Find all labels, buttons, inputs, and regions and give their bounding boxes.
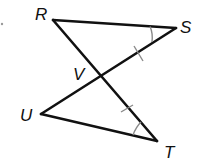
label-r: R <box>35 5 47 24</box>
label-v: V <box>73 65 86 84</box>
angle-arc-s <box>150 27 152 43</box>
segment-su <box>41 28 176 114</box>
stray-dot <box>1 23 3 25</box>
segment-rs <box>53 20 176 28</box>
label-u: U <box>20 106 33 125</box>
geometry-diagram: R S V U T <box>0 0 198 168</box>
label-t: T <box>164 143 176 162</box>
segment-ut <box>41 114 157 141</box>
segment-rt <box>53 20 157 141</box>
label-s: S <box>180 18 192 37</box>
angle-arc-t <box>133 122 141 135</box>
